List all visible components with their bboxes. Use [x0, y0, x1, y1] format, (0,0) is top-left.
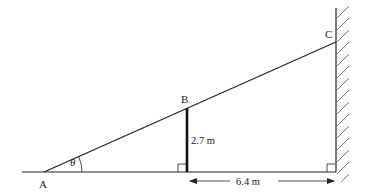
distance-label: 6.4 m	[236, 176, 260, 187]
ladder-line-AC	[44, 42, 336, 172]
ladder-wall-diagram: θ A B C 2.7 m 6.4 m	[0, 0, 373, 195]
angle-arc-theta	[79, 157, 82, 172]
height-label: 2.7 m	[191, 135, 215, 146]
wall-hatching	[337, 6, 349, 182]
point-label-C: C	[325, 28, 332, 40]
right-angle-marker-B	[178, 164, 186, 172]
point-label-A: A	[39, 178, 47, 190]
point-label-B: B	[181, 93, 188, 105]
angle-label-theta: θ	[70, 156, 76, 168]
right-angle-marker-C	[327, 164, 335, 172]
